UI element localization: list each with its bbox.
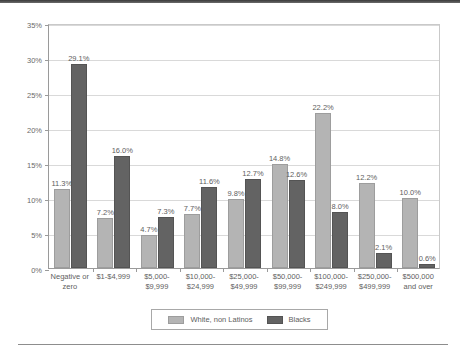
y-axis-tick-label: 30% bbox=[27, 56, 42, 65]
bar-blacks: 11.6% bbox=[201, 187, 217, 268]
bar-value-label: 12.7% bbox=[242, 169, 263, 178]
y-axis-tick-label: 0% bbox=[31, 266, 42, 275]
legend-item: White, non Latinos bbox=[168, 315, 252, 324]
chart-legend: White, non LatinosBlacks bbox=[151, 309, 328, 330]
bar-value-label: 8.0% bbox=[332, 202, 349, 211]
bar-group: 12.2%2.1% bbox=[354, 25, 398, 268]
bar-group: 22.2%8.0% bbox=[310, 25, 354, 268]
legend-swatch-blacks bbox=[267, 316, 283, 324]
bar-group: 7.2%16.0% bbox=[93, 25, 137, 268]
bar-value-label: 0.6% bbox=[419, 254, 436, 263]
bar-value-label: 7.2% bbox=[97, 208, 114, 217]
bar-value-label: 10.0% bbox=[400, 188, 421, 197]
bar-white-non-latinos: 7.7% bbox=[184, 214, 200, 268]
bar-value-label: 9.8% bbox=[227, 189, 244, 198]
bar-group: 7.7%11.6% bbox=[180, 25, 224, 268]
bar-blacks: 8.0% bbox=[332, 212, 348, 268]
bar-white-non-latinos: 12.2% bbox=[359, 183, 375, 268]
bar-value-label: 2.1% bbox=[375, 243, 392, 252]
bar-value-label: 4.7% bbox=[140, 225, 157, 234]
bar-group: 4.7%7.3% bbox=[136, 25, 180, 268]
y-axis-tick-label: 35% bbox=[27, 21, 42, 30]
bar-value-label: 22.2% bbox=[312, 103, 333, 112]
bar-value-label: 29.1% bbox=[68, 54, 89, 63]
bar-white-non-latinos: 9.8% bbox=[228, 199, 244, 268]
bar-group: 14.8%12.6% bbox=[267, 25, 311, 268]
bar-value-label: 14.8% bbox=[269, 154, 290, 163]
bar-value-label: 12.2% bbox=[356, 173, 377, 182]
bar-blacks: 16.0% bbox=[114, 156, 130, 268]
y-axis-tick-label: 5% bbox=[31, 231, 42, 240]
bar-value-label: 7.3% bbox=[157, 207, 174, 216]
bar-group: 9.8%12.7% bbox=[223, 25, 267, 268]
chart-figure: 0%5%10%15%20%25%30%35% 11.3%29.1%7.2%16.… bbox=[0, 4, 460, 342]
bar-group: 10.0%0.6% bbox=[397, 25, 441, 268]
x-axis-category-label: $500,000and over bbox=[392, 272, 444, 292]
page-rule-top bbox=[0, 0, 460, 3]
legend-label: White, non Latinos bbox=[190, 315, 252, 324]
y-axis-tick-label: 20% bbox=[27, 126, 42, 135]
bar-white-non-latinos: 7.2% bbox=[97, 218, 113, 268]
bar-white-non-latinos: 10.0% bbox=[402, 198, 418, 268]
bar-value-label: 16.0% bbox=[112, 146, 133, 155]
bar-value-label: 11.6% bbox=[199, 177, 220, 186]
bar-group: 11.3%29.1% bbox=[49, 25, 93, 268]
bar-value-label: 7.7% bbox=[184, 204, 201, 213]
y-axis-tick-label: 25% bbox=[27, 91, 42, 100]
bar-groups: 11.3%29.1%7.2%16.0%4.7%7.3%7.7%11.6%9.8%… bbox=[49, 25, 439, 268]
bar-blacks: 2.1% bbox=[376, 253, 392, 268]
x-axis-category-label-line: zero bbox=[44, 282, 96, 292]
bar-blacks: 12.7% bbox=[245, 179, 261, 268]
legend-item: Blacks bbox=[267, 315, 311, 324]
bar-value-label: 12.6% bbox=[286, 170, 307, 179]
bar-blacks: 7.3% bbox=[158, 217, 174, 268]
y-axis-tick-mark bbox=[45, 270, 49, 271]
legend-swatch-white-non-latinos bbox=[168, 316, 184, 324]
y-axis-tick-label: 15% bbox=[27, 161, 42, 170]
bar-blacks: 29.1% bbox=[71, 64, 87, 268]
bar-blacks: 12.6% bbox=[289, 180, 305, 268]
bar-value-label: 11.3% bbox=[51, 179, 72, 188]
y-axis-tick-label: 10% bbox=[27, 196, 42, 205]
x-axis-labels: Negative orzero$1-$4,999$5,000-$9,999$10… bbox=[48, 272, 440, 306]
bar-white-non-latinos: 4.7% bbox=[141, 235, 157, 268]
bar-white-non-latinos: 14.8% bbox=[272, 164, 288, 268]
x-axis-category-label-line: $500,000 bbox=[392, 272, 444, 282]
bar-blacks: 0.6% bbox=[419, 264, 435, 268]
plot-area: 0%5%10%15%20%25%30%35% 11.3%29.1%7.2%16.… bbox=[48, 24, 440, 269]
bar-white-non-latinos: 22.2% bbox=[315, 113, 331, 268]
x-axis-category-label-line: and over bbox=[392, 282, 444, 292]
legend-label: Blacks bbox=[289, 315, 311, 324]
page-rule-bottom bbox=[18, 344, 448, 345]
bar-white-non-latinos: 11.3% bbox=[54, 189, 70, 268]
